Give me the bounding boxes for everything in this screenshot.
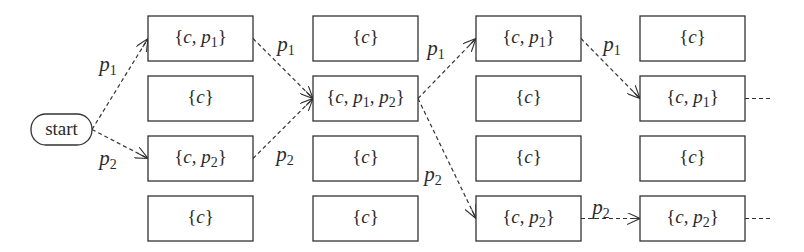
edge-label-p2: p2 [97, 146, 117, 172]
set-label: {c} [187, 206, 214, 227]
set-label: {c, p2​} [174, 146, 227, 170]
edge-label-p1: p1 [275, 32, 295, 58]
set-label: {c, p1​} [666, 86, 719, 110]
state-box: {c, p1​} [640, 76, 745, 121]
edge-label-p1: p1 [425, 36, 445, 62]
state-box: {c} [476, 136, 581, 181]
state-box: {c} [148, 196, 253, 241]
set-label: {c, p2​} [502, 206, 555, 230]
set-label: {c} [679, 26, 706, 47]
state-box: {c, p2​} [640, 196, 745, 241]
set-label: {c, p1​} [174, 26, 227, 50]
state-box: {c} [640, 16, 745, 61]
edge-label-p1: p1 [601, 32, 621, 58]
set-label: {c, p1​} [502, 26, 555, 50]
set-label: {c} [352, 206, 379, 227]
set-label: {c} [187, 86, 214, 107]
state-box: {c, p1​} [148, 16, 253, 61]
set-label: {c} [515, 146, 542, 167]
edge-label-p2: p2 [274, 142, 294, 168]
set-label: {c} [352, 146, 379, 167]
nodes: start{c, p1​}{c}{c, p2​}{c}{c}{c, p1​, p… [31, 16, 745, 241]
edge-label-p2: p2 [422, 162, 442, 188]
state-box: {c} [148, 76, 253, 121]
edge-label-p2: p2 [590, 194, 610, 220]
state-box: {c} [313, 136, 418, 181]
set-label: {c} [515, 86, 542, 107]
state-box: {c, p1​} [476, 16, 581, 61]
state-box: {c, p2​} [148, 136, 253, 181]
edge-label-p1: p1 [97, 52, 117, 78]
state-box: {c} [313, 16, 418, 61]
state-box: {c} [313, 196, 418, 241]
state-box: {c, p1​, p2​} [313, 76, 418, 121]
state-box: {c} [640, 136, 745, 181]
state-transition-diagram: p1p2p1p2p1p2p1p2 start{c, p1​}{c}{c, p2​… [0, 0, 804, 252]
set-label: {c} [352, 26, 379, 47]
set-label: {c} [679, 146, 706, 167]
state-box: {c, p2​} [476, 196, 581, 241]
set-label: {c, p2​} [666, 206, 719, 230]
start-label: start [45, 118, 78, 139]
start-node: start [31, 114, 92, 145]
transition-arrow [418, 99, 476, 219]
state-box: {c} [476, 76, 581, 121]
